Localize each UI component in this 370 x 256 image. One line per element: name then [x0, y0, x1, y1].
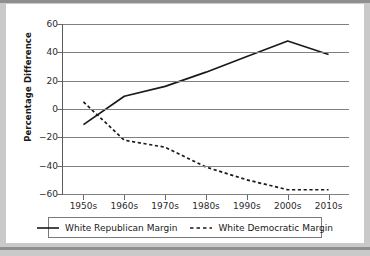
x-tick-mark	[165, 195, 166, 200]
series-line-republican	[83, 41, 328, 125]
y-tick-mark	[57, 137, 62, 138]
series-plot	[63, 24, 349, 194]
gridline	[63, 166, 349, 167]
y-axis-tick-labels: 6040200−20−40−60	[30, 4, 58, 204]
gridline	[63, 109, 349, 110]
y-tick-label: 60	[32, 19, 58, 29]
y-tick-label: 40	[32, 47, 58, 57]
y-tick-label: −20	[32, 132, 58, 142]
x-tick-mark	[124, 195, 125, 200]
x-tick-mark	[206, 195, 207, 200]
x-tick-mark	[247, 195, 248, 200]
y-tick-mark	[57, 81, 62, 82]
x-tick-mark	[288, 195, 289, 200]
series-line-democratic	[83, 102, 328, 190]
y-tick-mark	[57, 52, 62, 53]
gridline	[63, 24, 349, 25]
y-tick-mark	[57, 194, 62, 195]
chart-plot-area: Percentage Difference 6040200−20−40−60 1…	[6, 4, 364, 204]
bottom-divider-rule	[0, 247, 370, 250]
y-tick-mark	[57, 109, 62, 110]
gridline	[63, 137, 349, 138]
top-divider-rule	[0, 0, 370, 3]
legend-item-republican: White Republican Margin	[37, 223, 177, 233]
x-tick-mark	[83, 195, 84, 200]
y-tick-label: −40	[32, 161, 58, 171]
legend-label-democratic: White Democratic Margin	[218, 223, 333, 233]
legend-item-democratic: White Democratic Margin	[190, 223, 333, 233]
chart-legend: White Republican Margin White Democratic…	[48, 217, 322, 238]
gridline	[63, 81, 349, 82]
legend-label-republican: White Republican Margin	[65, 223, 177, 233]
solid-line-swatch	[37, 223, 59, 233]
y-tick-label: −60	[32, 189, 58, 199]
figure-card: Percentage Difference 6040200−20−40−60 1…	[6, 4, 364, 243]
x-tick-mark	[329, 195, 330, 200]
y-tick-label: 20	[32, 76, 58, 86]
gridline	[63, 52, 349, 53]
y-tick-label: 0	[32, 104, 58, 114]
x-tick-label: 2010s	[304, 201, 354, 211]
y-tick-mark	[57, 166, 62, 167]
y-tick-mark	[57, 24, 62, 25]
dashed-line-swatch	[190, 223, 212, 233]
